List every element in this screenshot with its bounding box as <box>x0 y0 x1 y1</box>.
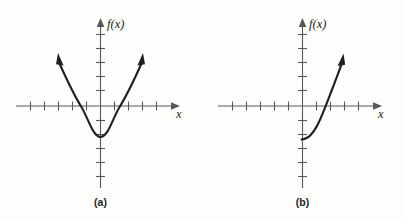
x-axis-label-b: x <box>377 107 384 121</box>
caption-panel-a: (a) <box>0 196 201 208</box>
x-axis-b <box>218 102 382 110</box>
y-axis-label-a: f(x) <box>107 17 124 31</box>
caption-panel-b: (b) <box>202 196 403 208</box>
coordinate-plot-b: f(x) x <box>202 0 403 200</box>
y-axis-label-b: f(x) <box>309 17 326 31</box>
math-figure-two-graphs: f(x) x (a) <box>0 0 403 220</box>
curve-increasing-b <box>302 54 346 140</box>
x-axis-a <box>16 102 180 110</box>
x-axis-label-a: x <box>175 107 182 121</box>
graph-panel-a: f(x) x (a) <box>0 0 201 220</box>
graph-panel-b: f(x) x (b) <box>202 0 403 220</box>
coordinate-plot-a: f(x) x <box>0 0 201 200</box>
